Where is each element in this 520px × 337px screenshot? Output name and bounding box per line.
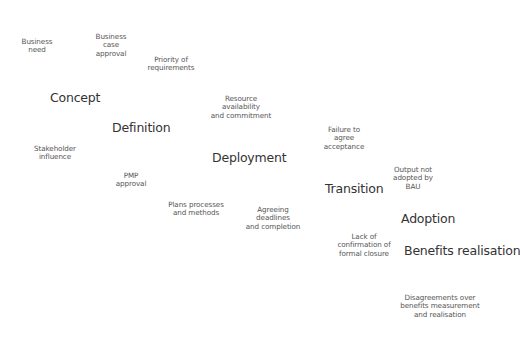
- stage-label-deployment: Deployment: [212, 150, 286, 165]
- issue-label: Plans processes and methods: [168, 201, 224, 218]
- issue-label: PMP approval: [116, 172, 147, 189]
- stage-label-transition: Transition: [325, 181, 383, 196]
- issue-label: Business need: [22, 38, 53, 55]
- stage-label-benefits-realisation: Benefits realisation: [404, 243, 520, 258]
- issue-label: Failure to agree acceptance: [324, 126, 364, 151]
- issue-label: Business case approval: [96, 33, 127, 58]
- stage-label-adoption: Adoption: [401, 211, 455, 226]
- issue-label: Resource availability and commitment: [211, 95, 271, 120]
- issue-label: Disagreements over benefits measurement …: [400, 294, 479, 319]
- issue-label: Priority of requirements: [148, 56, 195, 73]
- issue-label: Output not adopted by BAU: [393, 166, 433, 191]
- issue-label: Stakeholder influence: [34, 145, 76, 162]
- stage-label-concept: Concept: [50, 90, 100, 105]
- stage-label-definition: Definition: [112, 120, 171, 135]
- issue-label: Lack of confirmation of formal closure: [337, 233, 390, 258]
- issue-label: Agreeing deadlines and completion: [246, 206, 301, 231]
